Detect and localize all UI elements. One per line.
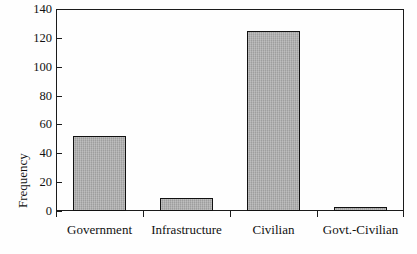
y-axis-tick-label: 140 xyxy=(33,2,52,17)
y-axis-tick-label: 120 xyxy=(33,30,52,45)
bar xyxy=(160,198,214,211)
y-axis-tick-label: 20 xyxy=(40,175,53,190)
x-axis-tick-mark xyxy=(143,211,144,217)
x-axis-category-label: Govt.-Civilian xyxy=(323,222,398,238)
bar xyxy=(73,136,127,211)
y-axis-tick-label: 0 xyxy=(46,204,52,219)
cropped-title-sliver xyxy=(0,0,417,5)
bar-chart-figure: Frequency 020406080100120140 GovernmentI… xyxy=(0,0,417,254)
x-axis-tick-mark xyxy=(230,211,231,217)
x-axis-category-labels: GovernmentInfrastructureCivilianGovt.-Ci… xyxy=(56,222,404,246)
y-axis-tick-label: 100 xyxy=(33,59,52,74)
x-axis-tick-mark xyxy=(403,211,404,217)
y-axis-tick-label: 40 xyxy=(40,146,53,161)
bar-series-group xyxy=(56,9,404,211)
x-axis-tick-mark xyxy=(56,211,57,217)
y-axis-tick-label: 80 xyxy=(40,88,53,103)
x-axis-category-label: Government xyxy=(67,222,132,238)
x-axis-category-label: Infrastructure xyxy=(151,222,222,238)
y-axis-tick-labels: 020406080100120140 xyxy=(0,0,52,254)
y-axis-tick-label: 60 xyxy=(40,117,53,132)
x-axis-tick-mark xyxy=(317,211,318,217)
bar xyxy=(247,31,301,211)
x-axis-tick-marks xyxy=(56,211,404,221)
x-axis-category-label: Civilian xyxy=(253,222,295,238)
